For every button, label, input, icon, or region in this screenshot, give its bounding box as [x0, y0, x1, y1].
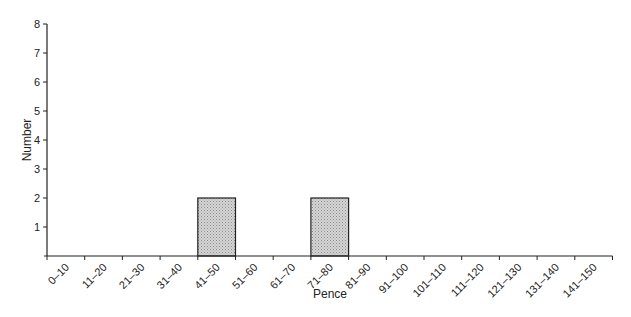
x-tick-label: 11–20 [79, 261, 109, 291]
x-tick-label: 131–140 [523, 261, 562, 300]
x-tick-label: 91–100 [376, 261, 410, 295]
y-tick-label: 7 [34, 47, 40, 59]
y-tick-label: 6 [34, 76, 40, 88]
x-tick-label: 51–60 [230, 261, 260, 291]
x-tick-label: 61–70 [267, 261, 297, 291]
histogram-chart: 0–1011–2021–3031–4041–5051–6061–7071–808… [0, 0, 631, 317]
x-tick-label: 81–90 [343, 261, 373, 291]
x-tick-label: 101–110 [410, 261, 448, 299]
y-tick-label: 1 [34, 221, 40, 233]
y-tick-label: 2 [34, 192, 40, 204]
x-axis-title: Pence [313, 287, 347, 301]
x-tick-label: 41–50 [192, 261, 222, 291]
y-tick-label: 5 [34, 105, 40, 117]
y-tick-labels: 12345678 [34, 18, 40, 233]
x-tick-label: 121–130 [485, 261, 524, 300]
x-tick-label: 21–30 [117, 261, 147, 291]
x-tick-label: 111–120 [448, 261, 486, 299]
y-axis-title: Number [20, 119, 34, 162]
y-tick-label: 8 [34, 18, 40, 30]
bar-71–80 [311, 198, 349, 256]
x-tick-label: 141–150 [560, 261, 599, 300]
x-tick-label: 0–10 [45, 261, 71, 287]
y-tick-label: 3 [34, 163, 40, 175]
bar-41–50 [198, 198, 236, 256]
y-tick-label: 4 [34, 134, 40, 146]
x-tick-label: 31–40 [154, 261, 184, 291]
bars-group [198, 198, 349, 256]
